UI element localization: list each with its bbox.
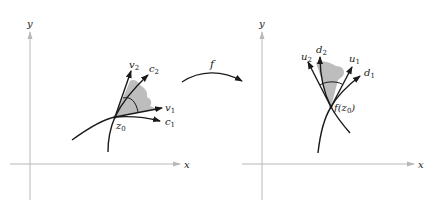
- left-panel: x y v2 c2 v1 c1 z0: [10, 18, 190, 200]
- right-point-fz0: [330, 106, 333, 109]
- right-panel: x y d2 u2 u1 d1 f(z0): [242, 18, 424, 200]
- left-label-c2: c2: [149, 63, 159, 76]
- left-label-v1: v1: [165, 102, 175, 115]
- mapping-label-f: f: [209, 58, 216, 71]
- left-label-v2: v2: [129, 59, 139, 72]
- left-label-c1: c1: [165, 116, 175, 129]
- mapping-arrow-curve: [182, 73, 242, 82]
- left-y-axis-label: y: [26, 18, 33, 29]
- mapping-arrow-f: f: [182, 58, 242, 82]
- right-label-u1: u1: [349, 53, 360, 66]
- left-point-z0: [114, 116, 117, 119]
- right-label-fz0: f(z0): [333, 102, 355, 115]
- right-x-axis-label: x: [418, 159, 424, 170]
- left-label-z0: z0: [115, 120, 126, 133]
- right-y-axis-label: y: [258, 18, 265, 29]
- right-label-d2: d2: [316, 44, 327, 57]
- conformal-map-diagram: x y v2 c2 v1 c1 z0 f x y: [0, 0, 437, 209]
- right-label-u2: u2: [301, 51, 312, 64]
- right-label-d1: d1: [364, 67, 375, 80]
- left-x-axis-label: x: [184, 159, 190, 170]
